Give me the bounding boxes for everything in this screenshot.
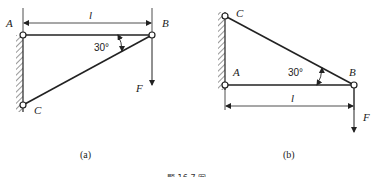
angle-arc	[317, 68, 322, 85]
wall-hatch	[218, 12, 225, 90]
pin-a	[222, 82, 228, 88]
pin-b	[351, 82, 357, 88]
label-a: A	[232, 66, 240, 78]
label-b: B	[162, 17, 169, 29]
wall-hatch	[16, 35, 23, 112]
figure-a: A B C F l 30° (a)	[5, 8, 169, 161]
label-b: B	[349, 66, 356, 78]
label-f: F	[362, 111, 370, 123]
caption-a: (a)	[80, 149, 91, 161]
label-c: C	[236, 7, 244, 19]
label-a: A	[5, 17, 13, 29]
figure-caption: 题 16-7 图	[167, 174, 206, 177]
angle-label: 30°	[94, 42, 109, 53]
figure-b: C A B F l 30° (b)	[218, 7, 370, 161]
pin-b	[149, 32, 155, 38]
label-f: F	[135, 82, 143, 94]
angle-label: 30°	[288, 67, 303, 78]
label-length: l	[291, 92, 294, 104]
angle-arc	[118, 35, 122, 51]
diagram-canvas: A B C F l 30° (a) C A B F l 30° (b)	[0, 0, 373, 177]
label-length: l	[89, 9, 92, 21]
pin-a	[20, 32, 26, 38]
label-c: C	[34, 104, 42, 116]
caption-b: (b)	[283, 149, 295, 161]
pin-c	[222, 13, 228, 19]
pin-c	[20, 102, 26, 108]
member-cb	[23, 35, 152, 105]
